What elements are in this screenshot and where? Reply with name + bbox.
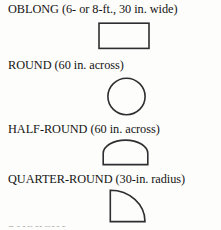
cropped-bottom-text-label: STRAIGHT bbox=[8, 226, 128, 230]
round-table-shape bbox=[106, 76, 148, 118]
oblong-caption: OBLONG (6- or 8-ft., 30 in. wide) bbox=[8, 3, 177, 16]
cropped-bottom-text: STRAIGHT bbox=[8, 226, 128, 230]
oblong-table-shape bbox=[98, 22, 151, 51]
quarter-round-caption: QUARTER-ROUND (30-in. radius) bbox=[8, 173, 185, 186]
round-caption: ROUND (60 in. across) bbox=[8, 59, 124, 72]
quarter-round-table-shape bbox=[109, 189, 149, 226]
half-round-table-shape bbox=[102, 139, 152, 167]
figure-page: OBLONG (6- or 8-ft., 30 in. wide) ROUND … bbox=[0, 0, 221, 230]
half-round-caption: HALF-ROUND (60 in. across) bbox=[8, 123, 160, 136]
